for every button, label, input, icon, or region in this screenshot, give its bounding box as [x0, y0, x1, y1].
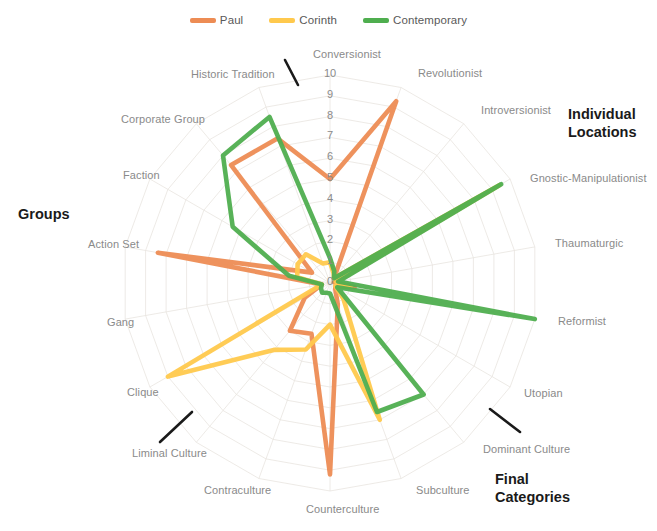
- section-title-individual-locations: IndividualLocations: [568, 105, 636, 141]
- separator-groups: [160, 412, 192, 442]
- section-title-line-2: Locations: [568, 123, 636, 141]
- section-title-line-1: Individual: [568, 105, 636, 123]
- legend-item-corinth[interactable]: Corinth: [269, 14, 337, 26]
- axis-label-contraculture: Contraculture: [204, 484, 271, 496]
- legend-label-contemporary: Contemporary: [393, 14, 467, 26]
- axis-label-subculture: Subculture: [416, 484, 470, 496]
- tick-label-9: 9: [320, 88, 340, 100]
- section-title-final-categories: FinalCategories: [495, 470, 570, 506]
- legend-item-contemporary[interactable]: Contemporary: [363, 14, 467, 26]
- axis-label-historic-tradition: Historic Tradition: [191, 68, 275, 80]
- axis-label-faction: Faction: [123, 169, 160, 181]
- axis-label-gang: Gang: [107, 316, 134, 328]
- tick-label-4: 4: [320, 192, 340, 204]
- separator-individual-locations: [285, 60, 298, 85]
- tick-label-7: 7: [320, 129, 340, 141]
- tick-label-0: 0: [320, 275, 340, 287]
- series-polygon-contemporary: [223, 117, 535, 412]
- tick-label-1: 1: [320, 254, 340, 266]
- tick-label-8: 8: [320, 109, 340, 121]
- axis-label-corporate-group: Corporate Group: [121, 113, 205, 125]
- axis-label-action-set: Action Set: [88, 238, 139, 250]
- axis-label-conversionist: Conversionist: [313, 48, 381, 60]
- chart-legend: Paul Corinth Contemporary: [0, 14, 657, 26]
- section-separators: [160, 60, 520, 442]
- axis-label-dominant-culture: Dominant Culture: [483, 443, 570, 455]
- separator-final-categories: [490, 409, 520, 432]
- legend-label-corinth: Corinth: [299, 14, 337, 26]
- axis-label-reformist: Reformist: [558, 315, 606, 327]
- tick-label-3: 3: [320, 213, 340, 225]
- axis-label-liminal-culture: Liminal Culture: [132, 447, 207, 459]
- axis-label-clique: Clique: [127, 386, 159, 398]
- legend-label-paul: Paul: [220, 14, 243, 26]
- section-title-line-2: Categories: [495, 488, 570, 506]
- axis-label-counterculture: Counterculture: [306, 503, 380, 515]
- axis-label-introversionist: Introversionist: [481, 104, 551, 116]
- axis-label-gnostic-manipulationist: Gnostic-Manipulationist: [530, 172, 647, 184]
- section-title-line-1: Final: [495, 470, 570, 488]
- legend-swatch-paul: [190, 18, 216, 23]
- legend-swatch-contemporary: [363, 18, 389, 23]
- radar-series-layer: [158, 101, 535, 474]
- tick-label-2: 2: [320, 233, 340, 245]
- tick-label-6: 6: [320, 150, 340, 162]
- tick-label-5: 5: [320, 171, 340, 183]
- axis-label-thaumaturgic: Thaumaturgic: [555, 237, 623, 249]
- legend-item-paul[interactable]: Paul: [190, 14, 243, 26]
- radar-chart-figure: Paul Corinth Contemporary ConversionistR…: [0, 0, 657, 531]
- axis-label-revolutionist: Revolutionist: [418, 67, 482, 79]
- legend-swatch-corinth: [269, 18, 295, 23]
- axis-label-utopian: Utopian: [524, 387, 563, 399]
- section-title-groups: Groups: [18, 205, 70, 223]
- tick-label-10: 10: [320, 67, 340, 79]
